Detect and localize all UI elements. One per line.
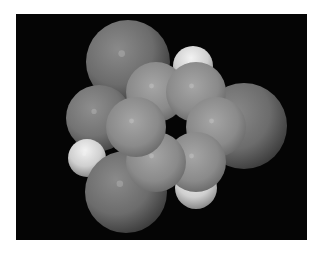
atom-highlight [118, 50, 125, 57]
atom-highlight [149, 154, 154, 159]
atom-highlight [129, 119, 134, 124]
molecule-viewport [16, 14, 307, 240]
atom-highlight [149, 84, 154, 89]
atom-highlight [189, 154, 194, 159]
atom-highlight [209, 119, 214, 124]
atom-highlight [117, 181, 124, 188]
atom-highlight [189, 84, 194, 89]
atom-ring-carbon-6 [106, 97, 166, 157]
atom-highlight [91, 109, 96, 114]
molecule-render [16, 14, 307, 240]
atom-highlight [82, 152, 86, 156]
